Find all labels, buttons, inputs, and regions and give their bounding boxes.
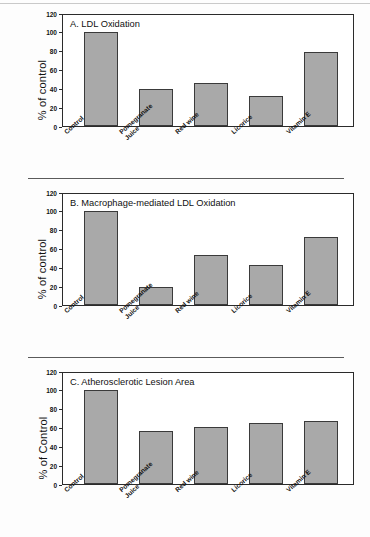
- bar-slot: [242, 15, 290, 126]
- y-tick-label: 40: [50, 264, 59, 271]
- bar-slot: [187, 194, 235, 305]
- bar-slot: [242, 194, 290, 305]
- x-label-slot: Vitamin E: [298, 307, 347, 353]
- x-label-slot: Red wine: [187, 307, 236, 353]
- bar-slot: [187, 373, 235, 484]
- y-axis-ticks-c: 020406080100120: [0, 372, 62, 485]
- chart-panel-b: % of control 020406080100120 B. Macropha…: [0, 179, 370, 358]
- x-label-slot: Vitamin E: [298, 486, 347, 532]
- y-tick-label: 60: [50, 67, 59, 74]
- x-label-slot: Red wine: [187, 486, 236, 532]
- y-tick-label: 120: [46, 189, 59, 196]
- y-tick-label: 100: [46, 29, 59, 36]
- y-tick-label: 0: [53, 302, 59, 309]
- bar-slot: [242, 373, 290, 484]
- y-tick-label: 80: [50, 48, 59, 55]
- y-tick-label: 100: [46, 387, 59, 394]
- y-tick-label: 100: [46, 208, 59, 215]
- bar-slot: [187, 15, 235, 126]
- y-tick-label: 20: [50, 104, 59, 111]
- y-axis-ticks-a: 020406080100120: [0, 14, 62, 127]
- y-tick-label: 40: [50, 85, 59, 92]
- x-label-slot: Licorice: [242, 128, 291, 174]
- y-tick-label: 80: [50, 406, 59, 413]
- x-label-slot: Pomegranate Juice: [131, 486, 180, 532]
- y-tick-label: 0: [53, 123, 59, 130]
- y-tick-label: 60: [50, 246, 59, 253]
- chart-panel-c: % of Control 020406080100120 C. Atherosc…: [0, 358, 370, 537]
- y-tick-label: 60: [50, 425, 59, 432]
- x-label-slot: Red wine: [187, 128, 236, 174]
- figure-page: % of control 020406080100120 A. LDL Oxid…: [0, 0, 370, 537]
- y-tick-label: 40: [50, 443, 59, 450]
- y-tick-label: 120: [46, 368, 59, 375]
- y-axis-ticks-b: 020406080100120: [0, 193, 62, 306]
- bar-slot: [297, 373, 345, 484]
- x-axis-labels-b: ControlPomegranate JuiceRed wineLicorice…: [62, 307, 354, 353]
- chart-panel-a: % of control 020406080100120 A. LDL Oxid…: [0, 0, 370, 179]
- x-axis-labels-a: ControlPomegranate JuiceRed wineLicorice…: [62, 128, 354, 174]
- y-tick-label: 20: [50, 462, 59, 469]
- y-tick-label: 80: [50, 227, 59, 234]
- y-tick-label: 0: [53, 481, 59, 488]
- bar-slot: [297, 15, 345, 126]
- x-label-slot: Control: [75, 307, 124, 353]
- x-label-slot: Control: [75, 128, 124, 174]
- x-label-slot: Pomegranate Juice: [131, 128, 180, 174]
- x-label-slot: Pomegranate Juice: [131, 307, 180, 353]
- x-axis-labels-c: ControlPomegranate JuiceRed wineLicorice…: [62, 486, 354, 532]
- x-label-slot: Licorice: [242, 307, 291, 353]
- x-label-slot: Vitamin E: [298, 128, 347, 174]
- bar-slot: [297, 194, 345, 305]
- y-tick-label: 20: [50, 283, 59, 290]
- x-label-slot: Licorice: [242, 486, 291, 532]
- y-tick-label: 120: [46, 10, 59, 17]
- x-label-slot: Control: [75, 486, 124, 532]
